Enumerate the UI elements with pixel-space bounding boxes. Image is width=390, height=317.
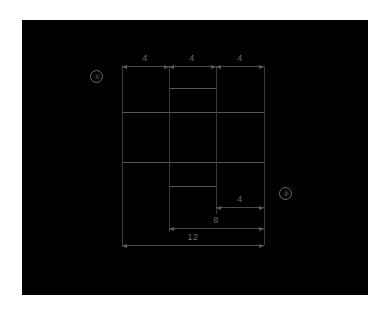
callout-2: ② <box>279 187 292 200</box>
dimension-line-bottom-8 <box>169 228 264 229</box>
horizontal-rectangle-bottom-edge <box>122 162 264 163</box>
dimension-arrow-right-bottom-8 <box>259 227 264 231</box>
vertical-rectangle-bottom-edge <box>169 186 216 187</box>
ext-left <box>122 66 123 245</box>
callout-1: ① <box>90 70 103 83</box>
dimension-arrow-left-bottom-right-4 <box>216 206 221 210</box>
drawing-page: 4444812①② <box>0 0 390 317</box>
dimension-arrow-left-top-seg-2 <box>169 65 174 69</box>
dimension-arrow-right-bottom-right-4 <box>259 206 264 210</box>
horizontal-rectangle-top-edge <box>122 112 264 113</box>
dimension-value-bottom-12: 12 <box>173 232 213 242</box>
dimension-arrow-left-top-seg-3 <box>216 65 221 69</box>
dimension-value-bottom-8: 8 <box>196 215 236 225</box>
dimension-value-top-seg-3: 4 <box>220 53 260 63</box>
dimension-arrow-left-bottom-8 <box>169 227 174 231</box>
ext-mid-right <box>216 66 217 214</box>
vertical-rectangle-top-edge <box>169 88 216 89</box>
dimension-value-top-seg-2: 4 <box>172 53 212 63</box>
dimension-line-top-seg-3 <box>216 66 264 67</box>
dimension-line-top-seg-1 <box>122 66 169 67</box>
dimension-arrow-left-bottom-12 <box>122 244 127 248</box>
dimension-line-bottom-right-4 <box>216 207 264 208</box>
ext-right <box>264 66 265 245</box>
dimension-arrow-left-top-seg-1 <box>122 65 127 69</box>
dimension-arrow-right-top-seg-3 <box>259 65 264 69</box>
dimension-line-bottom-12 <box>122 245 264 246</box>
ext-mid-left <box>169 66 170 232</box>
dimension-arrow-right-bottom-12 <box>259 244 264 248</box>
drawing-canvas: 4444812①② <box>22 20 368 295</box>
dimension-line-top-seg-2 <box>169 66 216 67</box>
dimension-value-top-seg-1: 4 <box>125 53 165 63</box>
dimension-value-bottom-right-4: 4 <box>220 194 260 204</box>
